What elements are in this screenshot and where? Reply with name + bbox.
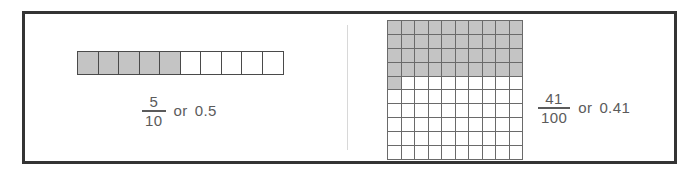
hundredths-cell-empty (483, 77, 497, 91)
tenths-cell-shaded (119, 52, 140, 74)
hundredths-cell-empty (510, 90, 524, 104)
hundredths-cell-shaded (429, 49, 443, 63)
hundredths-cell-shaded (388, 63, 402, 77)
hundredths-cell-empty (483, 146, 497, 160)
hundredths-cell-empty (510, 132, 524, 146)
tenths-cell-shaded (160, 52, 181, 74)
hundredths-cell-empty (469, 77, 483, 91)
hundredths-cell-empty (483, 104, 497, 118)
hundredths-cell-empty (402, 132, 416, 146)
caption-conjunction: or (578, 99, 592, 116)
hundredths-cell-empty (415, 132, 429, 146)
hundredths-cell-empty (496, 104, 510, 118)
tenths-cell-empty (242, 52, 263, 74)
hundredths-cell-shaded (456, 49, 470, 63)
hundredths-cell-empty (415, 118, 429, 132)
hundredths-cell-empty (388, 104, 402, 118)
hundredths-cell-shaded (469, 21, 483, 35)
hundredths-cell-shaded (483, 21, 497, 35)
fraction-denominator: 10 (142, 112, 166, 128)
hundredths-cell-shaded (429, 63, 443, 77)
hundredths-cell-shaded (429, 21, 443, 35)
hundredths-cell-shaded (496, 35, 510, 49)
hundredths-cell-shaded (415, 63, 429, 77)
hundredths-cell-empty (469, 146, 483, 160)
hundredths-cell-empty (442, 104, 456, 118)
hundredths-cell-shaded (510, 63, 524, 77)
hundredths-cell-empty (456, 118, 470, 132)
hundredths-cell-empty (510, 104, 524, 118)
hundredths-cell-empty (415, 104, 429, 118)
decimal-value: 0.5 (195, 102, 217, 119)
hundredths-cell-empty (496, 146, 510, 160)
hundredths-cell-shaded (469, 35, 483, 49)
hundredths-cell-shaded (469, 49, 483, 63)
hundredths-cell-shaded (388, 35, 402, 49)
tenths-cell-empty (263, 52, 284, 74)
hundredths-cell-empty (415, 90, 429, 104)
caption-hundredths: 41 100 or 0.41 (538, 91, 630, 125)
hundredths-cell-shaded (469, 63, 483, 77)
hundredths-cell-shaded (429, 35, 443, 49)
hundredths-grid-model (387, 20, 523, 160)
fraction-denominator: 100 (538, 109, 570, 125)
hundredths-cell-shaded (402, 49, 416, 63)
hundredths-cell-shaded (496, 63, 510, 77)
hundredths-cell-empty (456, 104, 470, 118)
hundredths-cell-shaded (456, 21, 470, 35)
hundredths-cell-empty (510, 118, 524, 132)
hundredths-cell-empty (442, 132, 456, 146)
hundredths-cell-shaded (510, 35, 524, 49)
hundredths-cell-empty (415, 146, 429, 160)
tenths-cell-empty (181, 52, 202, 74)
panel-hundredths: 41 100 or 0.41 (348, 11, 677, 164)
hundredths-cell-shaded (483, 49, 497, 63)
hundredths-cell-empty (402, 77, 416, 91)
hundredths-cell-shaded (456, 63, 470, 77)
tenths-cell-shaded (99, 52, 120, 74)
hundredths-cell-shaded (402, 21, 416, 35)
hundredths-cell-empty (469, 104, 483, 118)
hundredths-cell-empty (483, 132, 497, 146)
hundredths-cell-empty (388, 90, 402, 104)
fraction-decimal-figure: 5 10 or 0.5 41 100 or 0.41 (0, 0, 693, 176)
hundredths-cell-empty (402, 118, 416, 132)
hundredths-cell-empty (429, 146, 443, 160)
hundredths-cell-empty (442, 90, 456, 104)
fraction-numerator: 41 (542, 91, 566, 107)
caption-conjunction: or (174, 102, 188, 119)
hundredths-cell-empty (456, 90, 470, 104)
hundredths-cell-shaded (456, 35, 470, 49)
hundredths-cell-empty (402, 90, 416, 104)
hundredths-cell-empty (442, 146, 456, 160)
hundredths-cell-empty (388, 118, 402, 132)
hundredths-cell-shaded (510, 49, 524, 63)
hundredths-cell-shaded (388, 21, 402, 35)
hundredths-cell-empty (496, 132, 510, 146)
hundredths-cell-empty (429, 132, 443, 146)
hundredths-cell-empty (469, 132, 483, 146)
tenths-cell-empty (222, 52, 243, 74)
hundredths-cell-empty (496, 77, 510, 91)
tenths-cell-shaded (140, 52, 161, 74)
caption-tenths: 5 10 or 0.5 (142, 94, 217, 128)
hundredths-cell-empty (442, 118, 456, 132)
hundredths-cell-empty (429, 118, 443, 132)
hundredths-cell-empty (510, 77, 524, 91)
hundredths-cell-shaded (442, 63, 456, 77)
hundredths-cell-shaded (483, 63, 497, 77)
hundredths-cell-empty (496, 118, 510, 132)
hundredths-cell-shaded (402, 63, 416, 77)
tenths-cell-empty (201, 52, 222, 74)
hundredths-cell-empty (496, 90, 510, 104)
decimal-value: 0.41 (599, 99, 630, 116)
hundredths-cell-empty (442, 77, 456, 91)
hundredths-cell-shaded (496, 21, 510, 35)
hundredths-cell-shaded (442, 35, 456, 49)
hundredths-cell-empty (402, 146, 416, 160)
hundredths-cell-shaded (388, 49, 402, 63)
hundredths-cell-empty (483, 90, 497, 104)
hundredths-cell-shaded (388, 77, 402, 91)
fraction-tenths: 5 10 (142, 94, 166, 128)
hundredths-cell-empty (429, 90, 443, 104)
